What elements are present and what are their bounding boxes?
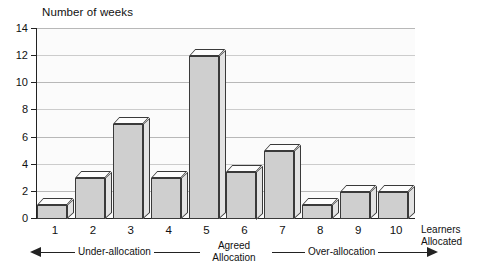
bar-front-face: [113, 124, 143, 219]
annotation-over-allocation: Over-allocation: [305, 246, 378, 257]
y-tick-label: 2: [0, 185, 28, 197]
y-tick-label: 8: [0, 103, 28, 115]
y-tick-label: 12: [0, 49, 28, 61]
y-tick-label: 10: [0, 76, 28, 88]
bar-front-face: [340, 192, 370, 219]
bar-front-face: [37, 205, 67, 219]
y-tick-label: 0: [0, 212, 28, 224]
bar-front-face: [226, 172, 256, 220]
x-tick-label: 8: [303, 224, 337, 236]
y-tick-label: 6: [0, 131, 28, 143]
bar-side-face: [105, 172, 112, 219]
bar-side-face: [143, 118, 150, 219]
x-tick-label: 7: [265, 224, 299, 236]
bar: [75, 171, 105, 219]
x-tick-label: 9: [341, 224, 375, 236]
x-axis-label-line1: Learners: [421, 224, 462, 236]
bar-top-face: [75, 171, 111, 178]
x-tick-label: 2: [76, 224, 110, 236]
bar-top-face: [378, 185, 414, 192]
y-tick-label: 14: [0, 22, 28, 34]
bars-layer: [36, 28, 415, 219]
bar-side-face: [181, 172, 188, 219]
bar-front-face: [378, 192, 408, 219]
bar: [302, 198, 332, 219]
annotation-under-allocation: Under-allocation: [75, 246, 154, 257]
y-tick-label: 4: [0, 158, 28, 170]
bar-chart: Number of weeks 02468101214 12345678910 …: [0, 0, 485, 276]
annotation-agreed-line2: Allocation: [196, 252, 272, 264]
x-axis-label: Learners Allocated: [421, 224, 462, 247]
bar: [264, 144, 294, 219]
x-axis-label-line2: Allocated: [421, 236, 462, 248]
bar: [113, 117, 143, 219]
x-tick-label: 10: [379, 224, 413, 236]
x-tick-label: 3: [114, 224, 148, 236]
bar-side-face: [256, 165, 263, 219]
bar: [226, 165, 256, 220]
bar: [378, 185, 408, 219]
bar-front-face: [302, 205, 332, 219]
bar-side-face: [294, 145, 301, 219]
x-tick-label: 4: [152, 224, 186, 236]
bar-front-face: [151, 178, 181, 219]
x-tick-label: 6: [227, 224, 261, 236]
bar: [189, 49, 219, 219]
bar-side-face: [219, 50, 226, 219]
bar-front-face: [264, 151, 294, 219]
bar-top-face: [226, 165, 262, 172]
annotation-agreed-allocation: Agreed Allocation: [196, 240, 272, 263]
x-tick-label: 5: [190, 224, 224, 236]
over-allocation-arrow-icon: [427, 247, 438, 257]
bar-top-face: [340, 185, 376, 192]
bar-front-face: [75, 178, 105, 219]
chart-title: Number of weeks: [42, 6, 133, 18]
bar-front-face: [189, 56, 219, 219]
x-tick-label: 1: [38, 224, 72, 236]
bar-top-face: [113, 117, 149, 124]
bar-top-face: [151, 171, 187, 178]
annotation-agreed-line1: Agreed: [196, 240, 272, 252]
bar: [151, 171, 181, 219]
under-allocation-arrow-icon: [30, 247, 41, 257]
bar: [37, 198, 67, 219]
bar-top-face: [189, 49, 225, 56]
bar: [340, 185, 370, 219]
